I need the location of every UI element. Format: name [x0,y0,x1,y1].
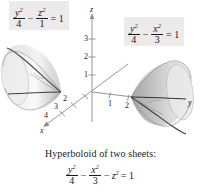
hyperboloid-figure: y2 4 − z2 1 = 1 y2 4 − x2 3 [0,0,201,196]
fraction-x-over-3: x2 3 [89,165,101,186]
exponent: 2 [116,168,119,175]
z-axis-label: z [90,6,93,14]
exponent: 2 [72,163,75,170]
x-axis-label: x [40,127,44,135]
x-tick-label-3: 3 [54,103,58,111]
z-squared-term: z2 [112,171,119,181]
y-tick-label-2: 2 [125,102,129,110]
exponent: 2 [96,163,99,170]
minus-operator: − [104,171,110,181]
z-axis [89,13,96,122]
denominator-value: 3 [91,176,100,186]
x-tick-label-4: 4 [44,112,48,120]
figure-caption: Hyperboloid of two sheets: y2 4 − x2 3 −… [0,148,201,186]
minus-operator: − [81,171,87,181]
y-tick-label-1: 1 [108,100,112,108]
hyperboloid-right-sheet [131,61,197,134]
z-tick-label-2: 2 [84,53,88,61]
y-tick-2 [128,95,130,101]
z-tick-label-1: 1 [84,71,88,79]
equation-hyperboloid: y2 4 − x2 3 − z2 = 1 [0,164,201,186]
z-tick-label-3: 3 [84,35,88,43]
caption-title: Hyperboloid of two sheets: [0,148,201,159]
x-tick-label-2: 2 [63,95,67,103]
equals-one: = 1 [121,171,134,181]
hyperboloid-left-sheet [0,44,61,110]
denominator-value: 4 [67,176,76,186]
coordinate-plot [0,0,201,145]
y-axis-label: y [188,99,192,107]
y-tick-1 [109,93,111,99]
fraction-y-over-4: y2 4 [66,165,78,186]
